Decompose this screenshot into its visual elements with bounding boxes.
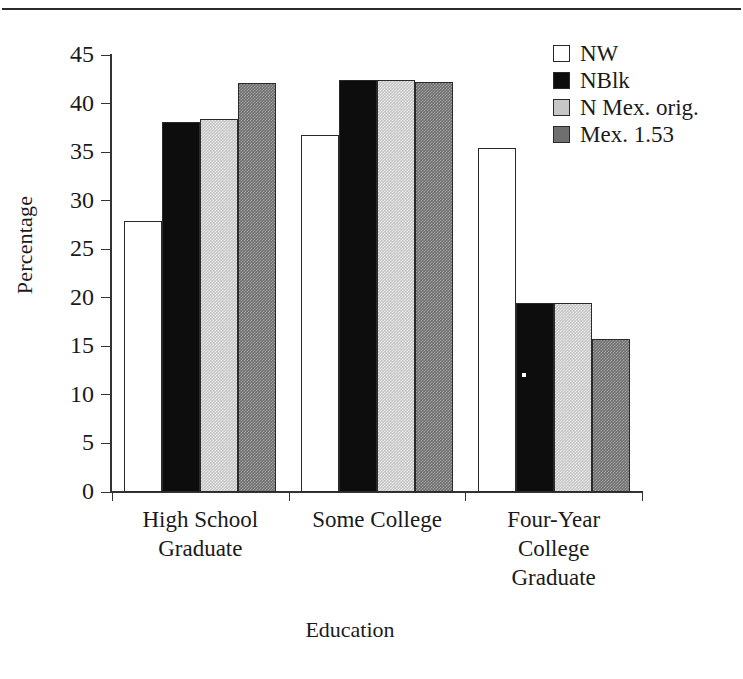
chart-legend: NWNBlkN Mex. orig.Mex. 1.53	[553, 40, 733, 148]
scan-speck	[522, 373, 526, 377]
x-tick-1	[289, 491, 290, 501]
y-tick-label-20: 20	[36, 285, 94, 309]
y-tick-0	[101, 492, 110, 493]
y-tick-label-10: 10	[36, 382, 94, 406]
x-category-label-line: Four-Year	[444, 505, 664, 534]
legend-item-0: NW	[553, 40, 733, 67]
legend-swatch-icon-1	[553, 72, 570, 89]
bar-3-1	[415, 82, 453, 492]
y-tick-5	[101, 443, 110, 444]
x-category-label-line: Graduate	[90, 534, 310, 563]
y-tick-label-5: 5	[36, 430, 94, 454]
y-tick-20	[101, 297, 110, 298]
y-tick-label-15: 15	[36, 333, 94, 357]
bar-0-1	[301, 135, 339, 492]
bar-3-2	[592, 339, 630, 492]
y-tick-label-0: 0	[36, 479, 94, 503]
y-tick-35	[101, 152, 110, 153]
bar-1-1	[339, 80, 377, 492]
legend-swatch-icon-3	[553, 126, 570, 143]
bar-3-0	[238, 83, 276, 492]
x-tick-0	[112, 491, 113, 501]
y-tick-25	[101, 249, 110, 250]
legend-item-1: NBlk	[553, 67, 733, 94]
legend-swatch-icon-2	[553, 99, 570, 116]
bar-2-2	[554, 303, 592, 492]
y-tick-label-25: 25	[36, 236, 94, 260]
y-tick-label-30: 30	[36, 188, 94, 212]
x-tick-2	[465, 491, 466, 501]
x-axis-title: Education	[0, 617, 700, 643]
y-axis-title: Percentage	[12, 150, 38, 340]
y-tick-label-40: 40	[36, 91, 94, 115]
x-category-label-2: Four-YearCollegeGraduate	[444, 505, 664, 592]
bar-2-1	[377, 80, 415, 492]
legend-swatch-icon-0	[553, 45, 570, 62]
y-tick-15	[101, 346, 110, 347]
y-tick-30	[101, 200, 110, 201]
x-category-label-line: Graduate	[444, 563, 664, 592]
y-axis-line	[110, 54, 112, 493]
bar-1-0	[162, 122, 200, 492]
legend-label-3: Mex. 1.53	[580, 123, 674, 146]
legend-item-2: N Mex. orig.	[553, 94, 733, 121]
x-tick-3	[642, 491, 643, 501]
bar-chart-figure: 051015202530354045 High SchoolGraduateSo…	[0, 0, 743, 679]
y-tick-45	[101, 55, 110, 56]
legend-item-3: Mex. 1.53	[553, 121, 733, 148]
bar-0-2	[478, 148, 516, 492]
bar-2-0	[200, 119, 238, 492]
y-tick-40	[101, 103, 110, 104]
legend-label-1: NBlk	[580, 69, 630, 92]
y-tick-label-35: 35	[36, 139, 94, 163]
x-category-label-line: College	[444, 534, 664, 563]
bar-1-2	[516, 303, 554, 492]
legend-label-2: N Mex. orig.	[580, 96, 699, 119]
bar-0-0	[124, 221, 162, 492]
y-tick-label-45: 45	[36, 42, 94, 66]
y-tick-10	[101, 394, 110, 395]
legend-label-0: NW	[580, 42, 618, 65]
